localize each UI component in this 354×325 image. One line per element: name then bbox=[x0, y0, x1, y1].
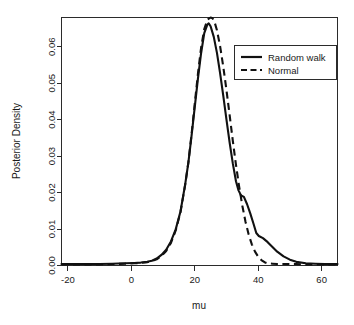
chart-figure: -200204060 0.000.010.020.030.040.050.06 … bbox=[0, 0, 354, 325]
posterior-density-chart: -200204060 0.000.010.020.030.040.050.06 … bbox=[0, 0, 354, 325]
x-tick-label: 40 bbox=[253, 274, 264, 285]
y-tick-label: 0.04 bbox=[46, 110, 57, 129]
y-tick-label: 0.00 bbox=[46, 256, 57, 275]
x-axis-title: mu bbox=[192, 300, 206, 311]
chart-legend: Random walk Normal bbox=[235, 46, 337, 80]
axis-titles: mu Posterior Density bbox=[11, 103, 206, 311]
legend-label-random-walk: Random walk bbox=[268, 52, 326, 63]
y-axis-title: Posterior Density bbox=[11, 103, 22, 179]
y-tick-label: 0.02 bbox=[46, 183, 57, 202]
y-tick-label: 0.06 bbox=[46, 37, 57, 56]
y-axis-ticks: 0.000.010.020.030.040.050.06 bbox=[46, 37, 62, 274]
y-tick-label: 0.03 bbox=[46, 147, 57, 166]
x-tick-label: -20 bbox=[61, 274, 75, 285]
x-axis-ticks: -200204060 bbox=[61, 266, 327, 285]
y-tick-label: 0.01 bbox=[46, 220, 57, 239]
y-tick-label: 0.05 bbox=[46, 74, 57, 93]
x-tick-label: 20 bbox=[189, 274, 200, 285]
legend-label-normal: Normal bbox=[268, 65, 299, 76]
x-tick-label: 0 bbox=[129, 274, 134, 285]
x-tick-label: 60 bbox=[316, 274, 327, 285]
